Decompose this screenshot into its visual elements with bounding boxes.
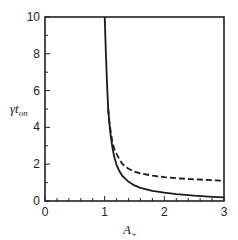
x-tick-label: 1 [101,205,108,219]
series-dashed-line [108,109,224,181]
y-tick-label: 10 [27,10,41,24]
series-solid-line [105,17,224,197]
plot-frame [45,17,224,201]
y-tick-label: 6 [33,84,40,98]
plot-area [45,17,224,201]
x-tick-label: 0 [42,205,49,219]
y-axis-label: γton [10,101,28,118]
y-tick-label: 0 [33,194,40,208]
x-tick-label: 2 [161,205,168,219]
y-tick-label: 8 [33,47,40,61]
x-tick-label: 3 [221,205,228,219]
chart: 01230246810 A+ γton [0,0,238,240]
x-axis-label: A+ [122,222,137,239]
axis-ticks [45,17,224,201]
y-tick-label: 2 [33,157,40,171]
tick-labels: 01230246810 [27,10,228,219]
y-tick-label: 4 [33,120,40,134]
curves [105,17,224,197]
